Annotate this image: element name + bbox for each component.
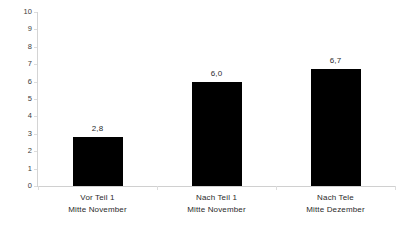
category-label-line-1: Nach Teil 1 — [157, 192, 276, 204]
y-axis-tick-label: 3 — [8, 130, 32, 138]
bar-chart: 109876543210 2,86,06,7 Vor Teil 1Mitte N… — [0, 0, 403, 227]
category-label-line-2: Mitte November — [38, 204, 157, 216]
y-axis-tick-label: 10 — [8, 8, 32, 16]
category-label-line-2: Mitte November — [157, 204, 276, 216]
y-axis-tick-label: 2 — [8, 147, 32, 155]
x-axis-separator-tick — [157, 186, 158, 190]
x-axis-category-labels: Vor Teil 1Mitte NovemberNach Teil 1Mitte… — [38, 192, 395, 224]
bar — [311, 69, 361, 186]
y-axis-tick-mark — [34, 12, 37, 13]
y-axis-tick-mark — [34, 116, 37, 117]
x-axis-separator-tick — [395, 186, 396, 190]
x-axis-category-label: Vor Teil 1Mitte November — [38, 192, 157, 217]
x-axis-separator-tick — [38, 186, 39, 190]
bar-value-label: 6,0 — [180, 70, 254, 78]
y-axis-tick-mark — [34, 134, 37, 135]
bar-value-label: 6,7 — [299, 57, 373, 65]
category-label-line-2: Mitte Dezember — [276, 204, 395, 216]
y-axis-tick-mark — [34, 99, 37, 100]
plot-area: 2,86,06,7 — [38, 12, 395, 186]
y-axis-tick-label: 7 — [8, 60, 32, 68]
bar — [192, 82, 242, 186]
bar — [73, 137, 123, 186]
y-axis-tick-label: 5 — [8, 95, 32, 103]
y-axis-tick-mark — [34, 29, 37, 30]
y-axis-tick-label: 8 — [8, 43, 32, 51]
y-axis-tick-mark — [34, 64, 37, 65]
category-label-line-1: Vor Teil 1 — [38, 192, 157, 204]
x-axis-category-label: Nach Teil 1Mitte November — [157, 192, 276, 217]
x-axis-separator-tick — [276, 186, 277, 190]
bar-group: 6,0 — [192, 12, 242, 186]
y-axis-tick-label: 9 — [8, 25, 32, 33]
bar-group: 2,8 — [73, 12, 123, 186]
bar-group: 6,7 — [311, 12, 361, 186]
category-label-line-1: Nach Tele — [276, 192, 395, 204]
y-axis-tick-label: 6 — [8, 78, 32, 86]
y-axis-tick-label: 1 — [8, 165, 32, 173]
y-axis-tick-mark — [34, 151, 37, 152]
y-axis-tick-mark — [34, 82, 37, 83]
y-axis-tick-label: 4 — [8, 112, 32, 120]
x-axis-line — [37, 186, 395, 187]
y-axis-tick-mark — [34, 47, 37, 48]
y-axis-tick-label: 0 — [8, 182, 32, 190]
x-axis-category-label: Nach TeleMitte Dezember — [276, 192, 395, 217]
y-axis-tick-mark — [34, 169, 37, 170]
bar-value-label: 2,8 — [61, 125, 135, 133]
